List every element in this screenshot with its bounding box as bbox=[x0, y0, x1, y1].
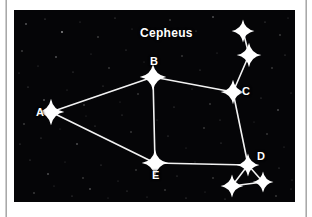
background-star bbox=[212, 177, 213, 178]
star-label-e: E bbox=[152, 170, 160, 181]
background-star bbox=[97, 36, 98, 37]
background-star bbox=[209, 103, 210, 104]
background-star bbox=[125, 49, 126, 50]
background-star bbox=[135, 169, 136, 170]
background-star bbox=[284, 147, 285, 148]
star-core bbox=[151, 75, 156, 80]
background-star bbox=[25, 23, 27, 25]
background-star bbox=[192, 89, 193, 90]
star-label-c: C bbox=[242, 86, 250, 97]
background-star bbox=[164, 189, 165, 190]
background-star bbox=[217, 53, 218, 54]
background-star bbox=[91, 54, 92, 55]
background-star bbox=[147, 197, 148, 198]
star-core bbox=[261, 180, 265, 184]
page-rule-right bbox=[305, 0, 307, 217]
star-core bbox=[230, 184, 234, 188]
background-star bbox=[254, 122, 255, 123]
background-star bbox=[277, 109, 279, 111]
background-star bbox=[264, 21, 265, 22]
background-star bbox=[27, 86, 28, 87]
background-star bbox=[284, 54, 285, 55]
background-star bbox=[167, 135, 168, 136]
star-marker bbox=[232, 20, 255, 43]
star-core bbox=[231, 90, 235, 94]
background-star bbox=[108, 67, 109, 68]
background-star bbox=[82, 177, 83, 178]
background-star bbox=[89, 188, 91, 190]
background-star bbox=[157, 120, 158, 121]
constellation-line bbox=[153, 77, 155, 163]
background-star bbox=[132, 29, 133, 30]
background-star bbox=[67, 90, 68, 91]
background-star bbox=[195, 162, 196, 163]
sky-panel: CepheusABCDE bbox=[14, 10, 295, 202]
background-star bbox=[121, 114, 122, 115]
background-star bbox=[186, 148, 187, 149]
constellation-line bbox=[51, 112, 155, 163]
constellation-figure: CepheusABCDE bbox=[0, 0, 312, 217]
constellation-line bbox=[155, 163, 248, 165]
background-star bbox=[199, 69, 200, 70]
background-star bbox=[21, 50, 22, 51]
background-star bbox=[65, 162, 66, 163]
background-star bbox=[33, 192, 34, 193]
background-star bbox=[29, 159, 30, 160]
background-star bbox=[291, 93, 292, 94]
star-core bbox=[241, 29, 245, 33]
background-star bbox=[291, 189, 292, 190]
page-rule-left bbox=[5, 0, 7, 217]
background-star bbox=[219, 119, 220, 120]
star-marker bbox=[221, 175, 244, 198]
star-marker bbox=[237, 43, 262, 68]
background-star bbox=[203, 127, 204, 128]
background-star bbox=[60, 129, 61, 130]
constellation-line bbox=[153, 77, 233, 92]
background-star bbox=[279, 34, 280, 35]
background-star bbox=[224, 198, 225, 199]
background-star bbox=[212, 16, 214, 18]
star-core bbox=[153, 161, 158, 166]
background-star bbox=[38, 66, 39, 67]
background-star bbox=[195, 30, 196, 31]
background-star bbox=[83, 104, 84, 105]
background-star bbox=[80, 22, 81, 23]
background-star bbox=[19, 73, 20, 74]
background-star bbox=[173, 106, 174, 107]
background-star bbox=[144, 62, 145, 63]
background-star bbox=[43, 99, 45, 101]
background-star bbox=[55, 56, 57, 58]
background-star bbox=[40, 137, 41, 138]
background-star bbox=[76, 143, 78, 145]
star-label-b: B bbox=[150, 56, 158, 67]
background-star bbox=[169, 19, 170, 20]
background-star bbox=[47, 173, 49, 175]
background-star bbox=[44, 18, 45, 19]
background-star bbox=[120, 102, 121, 103]
star-core bbox=[246, 163, 250, 167]
background-star bbox=[19, 143, 20, 144]
background-star bbox=[275, 195, 276, 196]
star-label-d: D bbox=[257, 151, 265, 162]
background-star bbox=[266, 133, 267, 134]
background-star bbox=[130, 131, 131, 132]
background-star bbox=[137, 93, 138, 94]
background-star bbox=[71, 195, 72, 196]
background-star bbox=[108, 198, 109, 199]
background-star bbox=[260, 97, 261, 98]
background-star bbox=[205, 192, 206, 193]
background-star bbox=[94, 125, 95, 126]
background-star bbox=[271, 67, 272, 68]
background-star bbox=[118, 181, 119, 182]
background-star bbox=[288, 18, 289, 19]
constellation-title: Cepheus bbox=[140, 27, 193, 39]
star-core bbox=[49, 110, 54, 115]
background-star bbox=[278, 167, 279, 168]
background-star bbox=[100, 164, 101, 165]
background-star bbox=[61, 31, 63, 33]
background-star bbox=[126, 190, 127, 191]
background-star bbox=[54, 186, 55, 187]
background-star bbox=[23, 123, 24, 124]
constellation-line bbox=[233, 92, 248, 165]
background-star bbox=[181, 55, 182, 56]
